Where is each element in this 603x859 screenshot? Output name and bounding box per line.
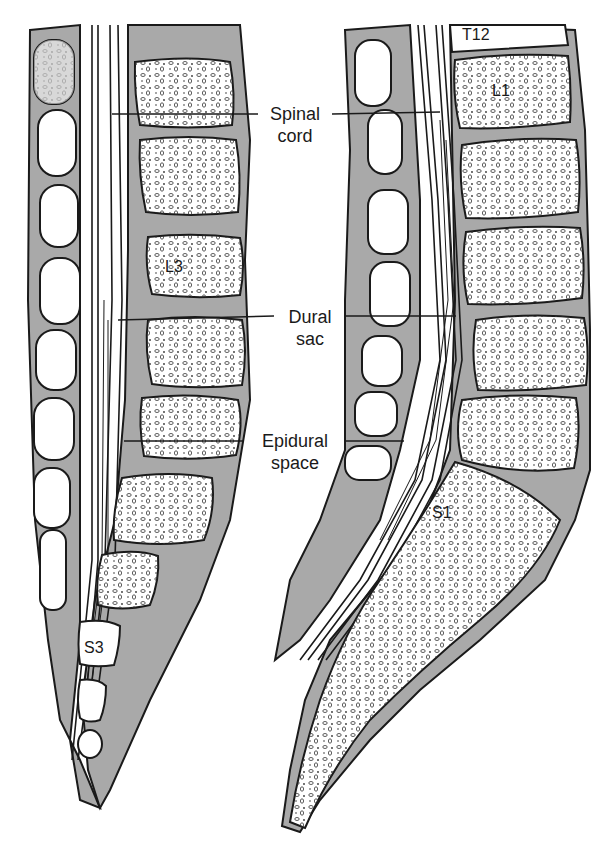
spine-diagram: L3 S3 xyxy=(0,0,603,859)
label-l1: L1 xyxy=(492,82,510,99)
label-spinal-line1: Spinal xyxy=(270,104,320,124)
label-s3: S3 xyxy=(84,639,104,656)
label-dural-line2: sac xyxy=(296,329,324,349)
center-labels: Spinal cord Dural sac Epidural space xyxy=(262,104,332,473)
right-vertebral-bodies xyxy=(290,25,588,828)
label-s1: S1 xyxy=(432,504,452,521)
label-epidural-line2: space xyxy=(271,453,319,473)
left-spine-panel: L3 S3 xyxy=(28,25,250,808)
right-spine-panel: T12 L1 S1 xyxy=(275,25,590,832)
label-dural-line1: Dural xyxy=(288,307,331,327)
label-epidural-line1: Epidural xyxy=(262,431,328,451)
label-spinal-line2: cord xyxy=(277,126,312,146)
label-t12: T12 xyxy=(462,26,490,43)
label-l3: L3 xyxy=(165,258,183,275)
